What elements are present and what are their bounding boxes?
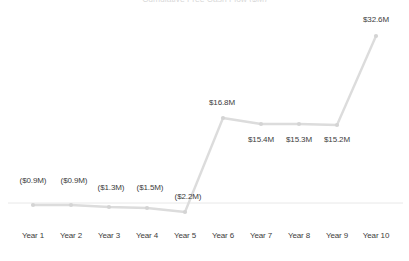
series-line <box>33 36 376 212</box>
data-point-label: $32.6M <box>363 15 389 24</box>
data-point-label: ($0.9M) <box>20 176 47 185</box>
data-point-marker[interactable] <box>297 122 301 126</box>
data-point-label: ($1.5M) <box>137 183 164 192</box>
x-axis-tick-label: Year 10 <box>363 231 390 240</box>
data-point-marker[interactable] <box>31 203 35 207</box>
data-point-marker[interactable] <box>183 210 187 214</box>
line-chart: Cumulative Free Cash Flow ($M) ($0.9M)($… <box>0 0 409 261</box>
data-point-marker[interactable] <box>335 123 339 127</box>
data-point-label: $16.8M <box>209 98 235 107</box>
data-point-label: ($1.3M) <box>98 183 125 192</box>
x-axis-tick-label: Year 8 <box>288 231 310 240</box>
data-point-label: $15.2M <box>324 135 350 144</box>
chart-plot-area <box>0 0 409 261</box>
x-axis-tick-label: Year 7 <box>250 231 272 240</box>
x-axis-tick-label: Year 3 <box>98 231 120 240</box>
data-point-marker[interactable] <box>259 122 263 126</box>
data-point-label: $15.3M <box>286 135 312 144</box>
x-axis-tick-label: Year 5 <box>174 231 196 240</box>
data-point-marker[interactable] <box>107 205 111 209</box>
data-point-label: $15.4M <box>248 135 274 144</box>
data-point-label: ($0.9M) <box>61 176 88 185</box>
data-point-marker[interactable] <box>374 34 378 38</box>
x-axis-tick-label: Year 9 <box>326 231 348 240</box>
data-point-marker[interactable] <box>221 116 225 120</box>
data-point-marker[interactable] <box>69 203 73 207</box>
x-axis-tick-label: Year 2 <box>60 231 82 240</box>
data-point-label: ($2.2M) <box>175 192 202 201</box>
data-point-marker[interactable] <box>145 206 149 210</box>
x-axis-tick-label: Year 4 <box>136 231 158 240</box>
x-axis-tick-label: Year 1 <box>22 231 44 240</box>
x-axis-tick-label: Year 6 <box>212 231 234 240</box>
